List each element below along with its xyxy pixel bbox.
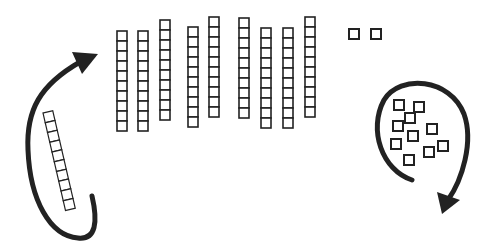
unit-cube <box>117 41 127 51</box>
decomposed-ten-group <box>28 52 98 238</box>
unit-cube <box>305 47 315 57</box>
unit-cube <box>305 77 315 87</box>
unit-cube <box>63 198 75 210</box>
unit-cube <box>188 77 198 87</box>
unit-cube <box>138 71 148 81</box>
unit-cube <box>209 97 219 107</box>
regrouped-ones <box>391 100 448 165</box>
unit-cube <box>305 57 315 67</box>
unit-cube <box>138 41 148 51</box>
unit-cube <box>209 67 219 77</box>
unit-cube <box>117 71 127 81</box>
unit-cube <box>239 108 249 118</box>
unit-cube <box>160 80 170 90</box>
unit-cube <box>239 68 249 78</box>
ten-rod <box>209 17 219 117</box>
unit-cube <box>305 87 315 97</box>
one-cube <box>405 113 415 123</box>
unit-cube <box>239 98 249 108</box>
ten-rod <box>239 18 249 118</box>
unit-cube <box>188 87 198 97</box>
unit-cube <box>209 27 219 37</box>
unit-cube <box>188 97 198 107</box>
unit-cube <box>160 30 170 40</box>
unit-cube <box>305 107 315 117</box>
unit-cube <box>117 101 127 111</box>
unit-cube <box>138 61 148 71</box>
unit-cube <box>283 78 293 88</box>
unit-cube <box>261 58 271 68</box>
unit-cube <box>239 48 249 58</box>
unit-cube <box>261 108 271 118</box>
unit-cube <box>283 48 293 58</box>
unit-cube <box>305 27 315 37</box>
unit-cube <box>283 118 293 128</box>
unit-cube <box>117 61 127 71</box>
unit-cube <box>209 17 219 27</box>
unit-cube <box>209 37 219 47</box>
unit-cube <box>117 31 127 41</box>
unit-cube <box>138 51 148 61</box>
unit-cube <box>261 28 271 38</box>
unit-cube <box>305 97 315 107</box>
unit-cube <box>209 57 219 67</box>
unit-cube <box>209 87 219 97</box>
ten-rod <box>160 20 170 120</box>
unit-cube <box>188 27 198 37</box>
unit-cube <box>138 121 148 131</box>
unit-cube <box>138 111 148 121</box>
one-cube <box>393 121 403 131</box>
ten-rod <box>261 28 271 128</box>
unit-cube <box>209 77 219 87</box>
unit-cube <box>117 111 127 121</box>
unit-cube <box>209 47 219 57</box>
unit-cube <box>160 60 170 70</box>
unit-cube <box>239 28 249 38</box>
tens-rods-group <box>117 17 315 131</box>
one-cube <box>408 131 418 141</box>
unit-cube <box>188 47 198 57</box>
unit-cube <box>239 38 249 48</box>
ten-rod <box>283 28 293 128</box>
unit-cube <box>283 88 293 98</box>
ten-rod <box>305 17 315 117</box>
unit-cube <box>160 20 170 30</box>
one-cube <box>424 147 434 157</box>
unit-cube <box>305 67 315 77</box>
diagram-canvas <box>0 0 494 252</box>
unit-cube <box>239 78 249 88</box>
unit-cube <box>305 37 315 47</box>
unit-cube <box>117 81 127 91</box>
unit-cube <box>283 28 293 38</box>
unit-cube <box>209 107 219 117</box>
unit-cube <box>239 58 249 68</box>
one-cube <box>414 102 424 112</box>
unit-cube <box>160 50 170 60</box>
unit-cube <box>160 110 170 120</box>
regrouped-ones-group <box>377 83 467 214</box>
one-cube <box>438 141 448 151</box>
one-cube <box>427 124 437 134</box>
unit-cube <box>188 67 198 77</box>
one-cube <box>349 29 359 39</box>
unit-cube <box>138 81 148 91</box>
decomposed-rod <box>43 111 75 211</box>
unit-cube <box>188 37 198 47</box>
ten-rod <box>138 31 148 131</box>
unit-cube <box>188 107 198 117</box>
base-ten-diagram: Base-ten blocks regrouping <box>0 0 494 252</box>
unit-cube <box>160 40 170 50</box>
unit-cube <box>283 38 293 48</box>
one-cube <box>394 100 404 110</box>
unit-cube <box>117 121 127 131</box>
loose-ones-group <box>349 29 381 39</box>
unit-cube <box>160 100 170 110</box>
unit-cube <box>261 68 271 78</box>
unit-cube <box>261 118 271 128</box>
unit-cube <box>117 91 127 101</box>
unit-cube <box>138 31 148 41</box>
unit-cube <box>283 58 293 68</box>
unit-cube <box>261 88 271 98</box>
unit-cube <box>188 117 198 127</box>
unit-cube <box>138 101 148 111</box>
